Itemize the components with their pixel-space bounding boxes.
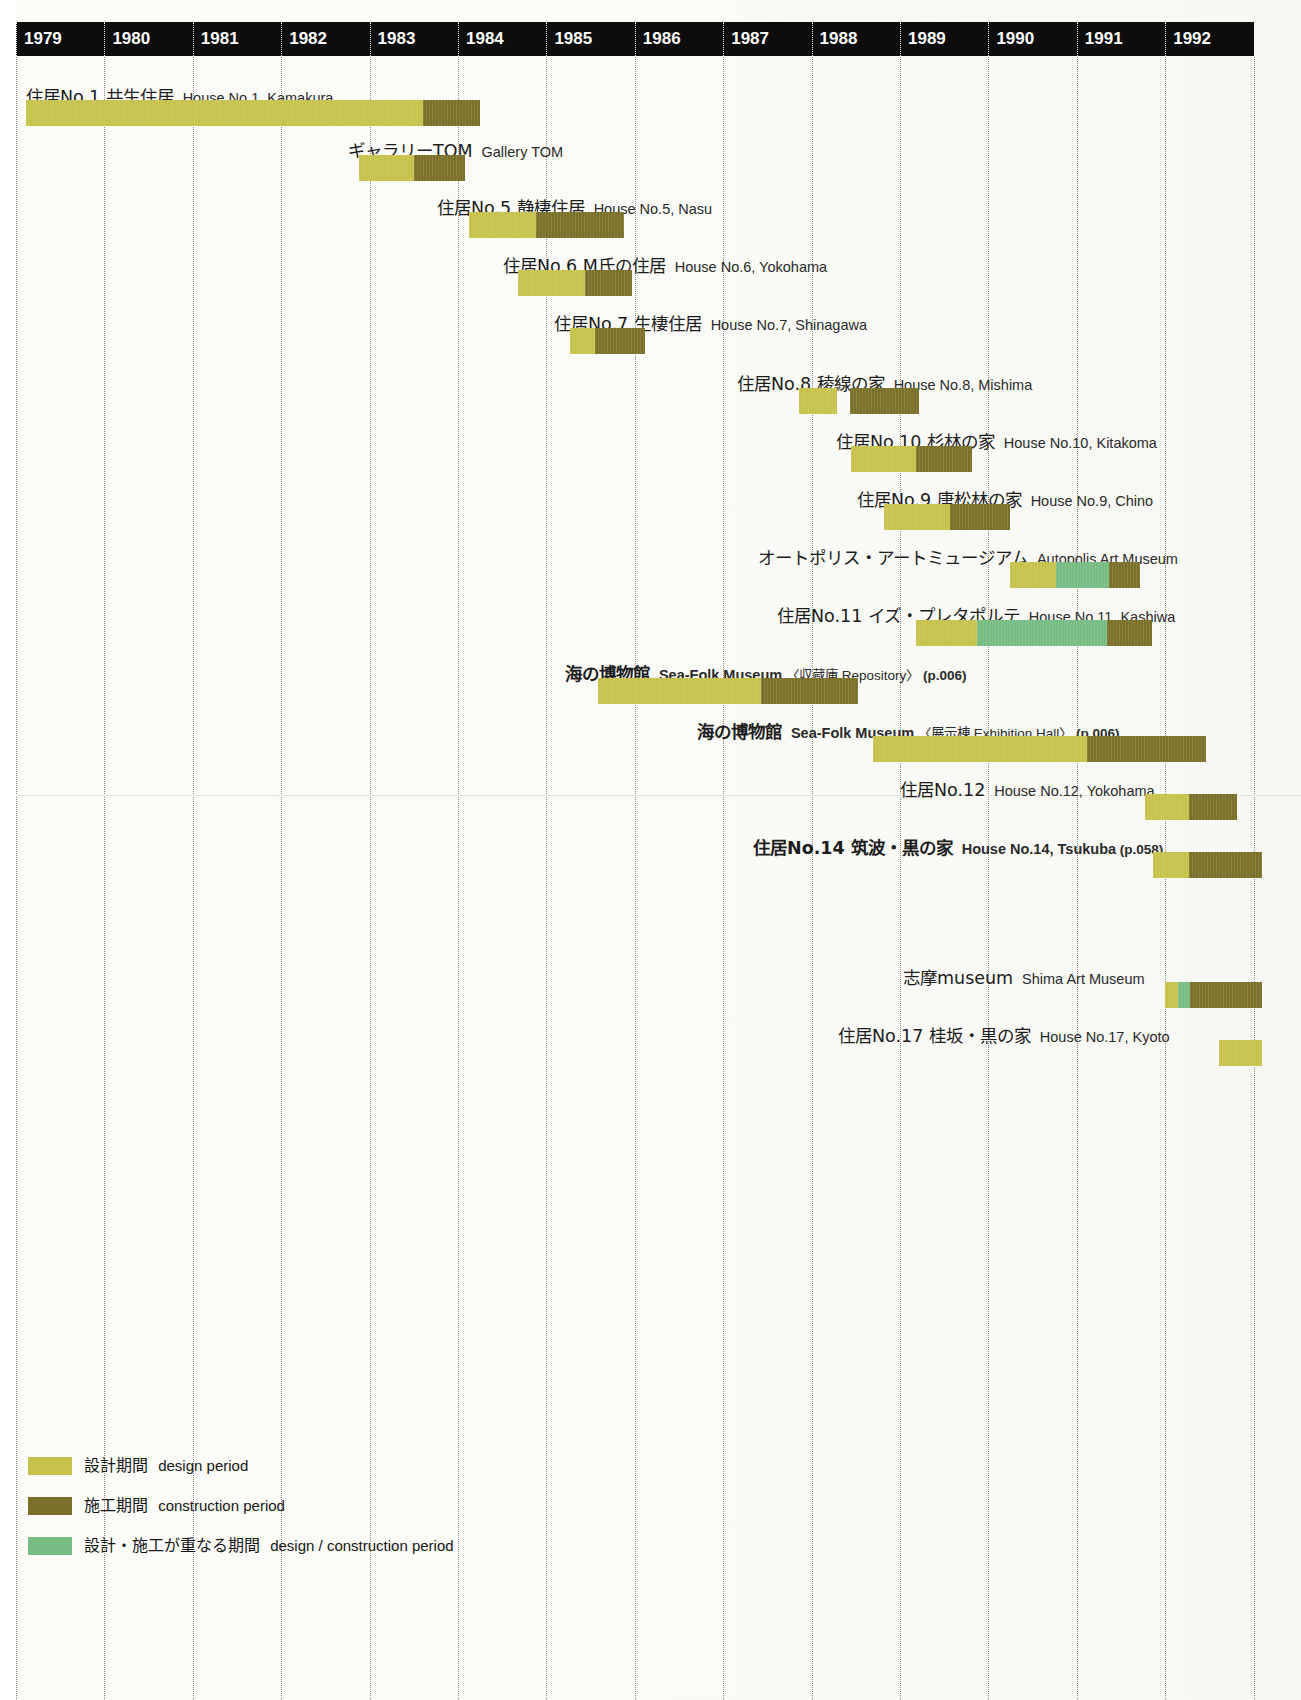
year-label-1990: 1990 [988,22,1076,56]
gantt-bar-construction [761,678,857,704]
legend-spacer [148,1496,158,1515]
gantt-bar-overlap [977,620,1107,646]
gantt-bar-design [518,270,585,296]
task-name-ja: 住居No.17 桂坂・黒の家 [838,1026,1031,1046]
gridline-header-1982 [281,22,282,56]
legend-label-ja: 施工期間 [84,1496,148,1515]
gridline-header-1985 [546,22,547,56]
gantt-bar-construction [850,388,920,414]
task-name-en: House No.12, Yokohama [994,783,1154,799]
gridline-header-1989 [900,22,901,56]
legend-spacer [260,1536,270,1555]
gantt-bar-design [359,155,414,181]
year-label-1982: 1982 [281,22,369,56]
gantt-bar-construction [1107,620,1152,646]
label-spacer [953,840,962,857]
task-name-ja: 志摩museum [903,968,1013,988]
label-spacer [666,258,675,275]
gridline-1990 [988,22,989,1700]
gantt-bar-design [851,446,916,472]
legend-swatch-construction [28,1497,72,1515]
gridline-1991 [1077,22,1078,1700]
label-spacer [782,724,791,741]
legend-label-ja: 設計期間 [84,1456,148,1475]
task-label: 住居No.17 桂坂・黒の家 House No.17, Kyoto [838,1028,1170,1046]
label-spacer [1022,492,1031,509]
gridline-header-1993 [1254,22,1255,56]
task-name-ja: オートポリス・アートミュージアム [758,548,1028,568]
gantt-bar-design [873,736,1086,762]
gantt-bar-design [916,620,977,646]
year-label-1984: 1984 [458,22,546,56]
legend-spacer [148,1456,158,1475]
label-spacer [985,782,994,799]
gantt-bar-overlap [1178,982,1190,1008]
gantt-bar-construction [1189,852,1262,878]
year-label-1979: 1979 [16,22,104,56]
task-label: 住居No.14 筑波・黒の家 House No.14, Tsukuba (p.0… [753,840,1163,858]
legend-label-en: construction period [158,1497,285,1514]
legend-label-overlap: 設計・施工が重なる期間 design / construction period [84,1535,454,1557]
gantt-bar-construction [1190,982,1262,1008]
legend-label-en: design / construction period [270,1537,453,1554]
year-label-1985: 1985 [546,22,634,56]
year-label-1991: 1991 [1077,22,1165,56]
year-label-1983: 1983 [370,22,458,56]
gantt-bar-design [1165,982,1177,1008]
gridline-1981 [193,22,194,1700]
gantt-bar-overlap [1056,562,1108,588]
gridline-header-1986 [635,22,636,56]
gridline-header-1987 [723,22,724,56]
gridline-header-1983 [370,22,371,56]
task-name-en: House No.17, Kyoto [1040,1029,1170,1045]
gantt-bar-construction [1109,562,1140,588]
label-spacer [702,316,711,333]
gantt-bar-design [1153,852,1189,878]
gridline-1980 [104,22,105,1700]
task-page-ref: (p.006) [919,668,966,683]
gantt-bar-design [26,100,423,126]
legend-label-en: design period [158,1457,248,1474]
gantt-bar-design [570,328,595,354]
gantt-bar-design [1145,794,1189,820]
gantt-bar-construction [585,270,632,296]
gridline-header-1988 [812,22,813,56]
legend-label-design: 設計期間 design period [84,1455,248,1477]
gridline-1979 [16,22,17,1700]
task-name-en: Gallery TOM [481,144,563,160]
year-label-1986: 1986 [635,22,723,56]
task-name-en: House No.14, Tsukuba [962,841,1116,857]
gridline-1989 [900,22,901,1700]
gridline-header-1991 [1077,22,1078,56]
legend-label-ja: 設計・施工が重なる期間 [84,1536,260,1555]
task-label: 住居No.12 House No.12, Yokohama [900,782,1155,800]
gridline-1984 [458,22,459,1700]
gantt-bar-construction [1189,794,1237,820]
gantt-chart-root: 1979198019811982198319841985198619871988… [0,0,1301,1700]
label-spacer [995,434,1004,451]
gridline-header-1979 [16,22,17,56]
task-name-en: House No.6, Yokohama [675,259,827,275]
task-name-en: Shima Art Museum [1022,971,1145,987]
task-name-ja: 住居No.14 筑波・黒の家 [753,838,953,858]
gantt-bar-construction [950,504,1009,530]
gantt-bar-construction [423,100,480,126]
gantt-bar-design [884,504,950,530]
gantt-bar-construction [916,446,973,472]
gantt-bar-construction [595,328,645,354]
gantt-bar-design [1010,562,1057,588]
task-label: 志摩museum Shima Art Museum [903,970,1145,988]
gridline-header-1980 [104,22,105,56]
gridline-header-1992 [1165,22,1166,56]
year-label-1988: 1988 [812,22,900,56]
gridline-1982 [281,22,282,1700]
year-label-1989: 1989 [900,22,988,56]
year-label-1992: 1992 [1165,22,1253,56]
page-left-margin [0,0,16,1700]
task-name-en: House No.10, Kitakoma [1004,435,1157,451]
legend-swatch-overlap [28,1537,72,1555]
gantt-bar-design [1219,1040,1262,1066]
year-label-1980: 1980 [104,22,192,56]
task-name-ja: 海の博物館 [697,722,782,742]
gridline-1983 [370,22,371,1700]
